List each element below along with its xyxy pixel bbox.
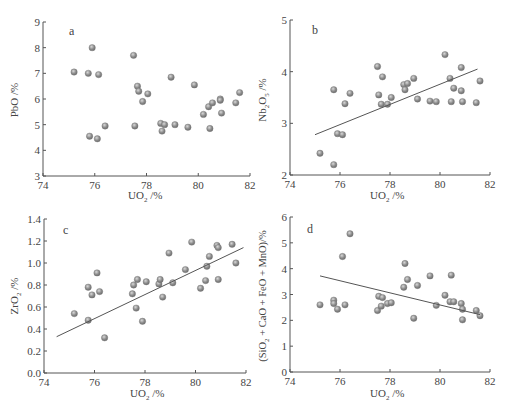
- data-point: [102, 123, 108, 129]
- data-point: [71, 310, 77, 316]
- data-point: [331, 300, 337, 306]
- x-tick-label: 82: [245, 179, 256, 191]
- y-tick-label: 9: [35, 16, 41, 28]
- y-tick-label: 0.0: [27, 367, 41, 379]
- data-point: [342, 101, 348, 107]
- data-point: [166, 250, 172, 256]
- data-point: [168, 74, 174, 80]
- panel-c-axes: 74767880820.00.20.40.60.81.01.21.4: [27, 213, 251, 388]
- data-point: [427, 273, 433, 279]
- data-point: [172, 121, 178, 127]
- data-point: [182, 266, 188, 272]
- panel-b-x-axis-label: UO2 /%: [370, 189, 404, 204]
- panel-d-axes: 74767880820123456: [282, 211, 496, 387]
- y-tick-label: 1: [282, 340, 288, 352]
- data-point: [129, 291, 135, 297]
- data-point: [130, 52, 136, 58]
- y-tick-label: 2: [282, 314, 288, 326]
- y-tick-label: 1.4: [27, 213, 41, 225]
- data-point: [191, 82, 197, 88]
- data-point: [477, 312, 483, 318]
- y-tick-label: 0.2: [27, 345, 41, 357]
- data-point: [133, 305, 139, 311]
- data-point: [448, 272, 454, 278]
- data-point: [159, 128, 165, 134]
- data-point: [96, 288, 102, 294]
- data-point: [411, 75, 417, 81]
- data-point: [139, 318, 145, 324]
- panel-b-label: b: [312, 23, 318, 37]
- y-tick-label: 7: [35, 67, 41, 79]
- data-point: [85, 70, 91, 76]
- y-tick-label: 4: [35, 144, 41, 156]
- data-point: [317, 150, 323, 156]
- data-point: [89, 292, 95, 298]
- data-point: [200, 111, 206, 117]
- data-point: [347, 90, 353, 96]
- panel-c-zro2-vs-uo2: 74767880820.00.20.40.60.81.01.21.4 c UO2…: [8, 213, 252, 402]
- data-point: [404, 276, 410, 282]
- data-point: [233, 260, 239, 266]
- data-point: [215, 276, 221, 282]
- y-tick-label: 6: [35, 93, 41, 105]
- data-point: [342, 302, 348, 308]
- panel-a-pbo-vs-uo2: 74767880823456789 a UO2 /% PbO /%: [8, 16, 256, 204]
- x-tick-label: 80: [435, 375, 447, 387]
- data-point: [477, 78, 483, 84]
- data-point: [101, 335, 107, 341]
- data-point: [388, 300, 394, 306]
- y-tick-label: 4: [282, 263, 288, 275]
- data-point: [331, 161, 337, 167]
- y-tick-label: 3: [282, 117, 288, 129]
- y-tick-label: 1.2: [27, 235, 41, 247]
- data-point: [334, 306, 340, 312]
- y-tick-label: 5: [35, 119, 41, 131]
- data-point: [161, 121, 167, 127]
- data-point: [217, 97, 223, 103]
- data-point: [89, 44, 95, 50]
- data-point: [94, 136, 100, 142]
- data-point: [159, 294, 165, 300]
- data-point: [207, 125, 213, 131]
- y-tick-label: 8: [35, 42, 41, 54]
- x-tick-label: 80: [435, 178, 447, 190]
- data-point: [185, 124, 191, 130]
- data-point: [458, 300, 464, 306]
- data-point: [414, 96, 420, 102]
- data-point: [139, 98, 145, 104]
- data-point: [145, 91, 151, 97]
- data-point: [143, 279, 149, 285]
- panel-d-trend-line: [320, 276, 480, 315]
- data-point: [132, 123, 138, 129]
- data-point: [85, 284, 91, 290]
- x-tick-label: 80: [193, 179, 205, 191]
- panel-c-x-axis-label: UO2 /%: [130, 387, 164, 402]
- data-point: [134, 276, 140, 282]
- data-point: [157, 276, 163, 282]
- y-tick-label: 1.0: [27, 257, 41, 269]
- data-point: [442, 292, 448, 298]
- panel-d-label: d: [307, 222, 313, 236]
- data-point: [209, 100, 215, 106]
- panel-a-x-axis-label: UO2 /%: [128, 189, 162, 204]
- y-tick-label: 3: [282, 289, 288, 301]
- y-tick-label: 0: [282, 366, 288, 378]
- data-point: [411, 315, 417, 321]
- data-point: [374, 63, 380, 69]
- y-tick-label: 2: [282, 169, 288, 181]
- data-point: [451, 85, 457, 91]
- data-point: [378, 101, 384, 107]
- data-point: [86, 133, 92, 139]
- data-point: [206, 253, 212, 259]
- data-point: [379, 294, 385, 300]
- data-point: [459, 317, 465, 323]
- x-tick-label: 76: [335, 375, 347, 387]
- data-point: [459, 98, 465, 104]
- data-point: [197, 285, 203, 291]
- x-tick-label: 78: [385, 375, 397, 387]
- data-point: [136, 88, 142, 94]
- data-point: [402, 87, 408, 93]
- y-tick-label: 5: [282, 237, 288, 249]
- x-tick-label: 76: [89, 179, 101, 191]
- data-point: [404, 80, 410, 86]
